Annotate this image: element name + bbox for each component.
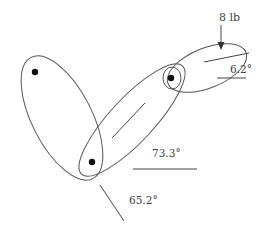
load-label: 8 lb xyxy=(219,11,240,24)
segment-middle-outline xyxy=(65,51,198,189)
load-arrow-head-icon xyxy=(218,42,225,50)
reference-line-65-2 xyxy=(100,185,124,221)
segment-left-outline xyxy=(4,44,119,192)
linkage-diagram: 8 lb 6.2° 73.3° 65.2° xyxy=(0,0,259,234)
angle-label-middle: 73.3° xyxy=(152,147,181,159)
joint-shoulder xyxy=(32,69,38,75)
right-segment-axis xyxy=(204,53,249,62)
angle-label-left: 65.2° xyxy=(129,194,158,206)
angle-label-right: 6.2° xyxy=(230,63,252,75)
joint-wrist xyxy=(168,75,174,81)
joint-elbow xyxy=(89,159,95,165)
middle-segment-axis xyxy=(112,103,145,138)
